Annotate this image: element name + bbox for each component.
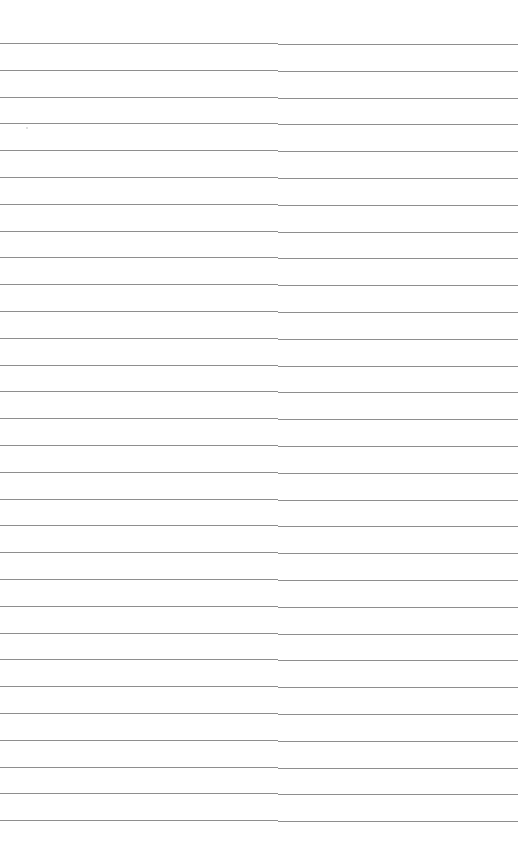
ruled-line (0, 391, 518, 393)
ruled-line (0, 713, 518, 715)
ruled-line (0, 606, 518, 608)
ruled-line (0, 820, 518, 822)
ruled-line (0, 767, 518, 769)
ruled-line (0, 686, 518, 688)
ruled-line (0, 338, 518, 340)
ruled-line (0, 659, 518, 661)
ruled-line (0, 231, 518, 233)
ruled-line (0, 552, 518, 554)
ruled-line (0, 499, 518, 501)
ruled-line (0, 445, 518, 447)
ruled-line (0, 177, 518, 179)
ruled-line (0, 97, 518, 99)
lined-paper-page (0, 0, 518, 866)
ruled-line (0, 123, 518, 125)
ruled-line (0, 204, 518, 206)
paper-speck (26, 127, 28, 129)
ruled-line (0, 793, 518, 795)
ruled-line (0, 525, 518, 527)
ruled-line (0, 43, 518, 45)
ruled-line (0, 150, 518, 152)
ruled-line (0, 579, 518, 581)
ruled-line (0, 365, 518, 367)
ruled-line (0, 472, 518, 474)
ruled-line (0, 70, 518, 72)
ruled-line (0, 311, 518, 313)
ruled-line (0, 257, 518, 259)
ruled-line (0, 418, 518, 420)
ruled-line (0, 740, 518, 742)
ruled-line (0, 633, 518, 635)
ruled-line (0, 284, 518, 286)
